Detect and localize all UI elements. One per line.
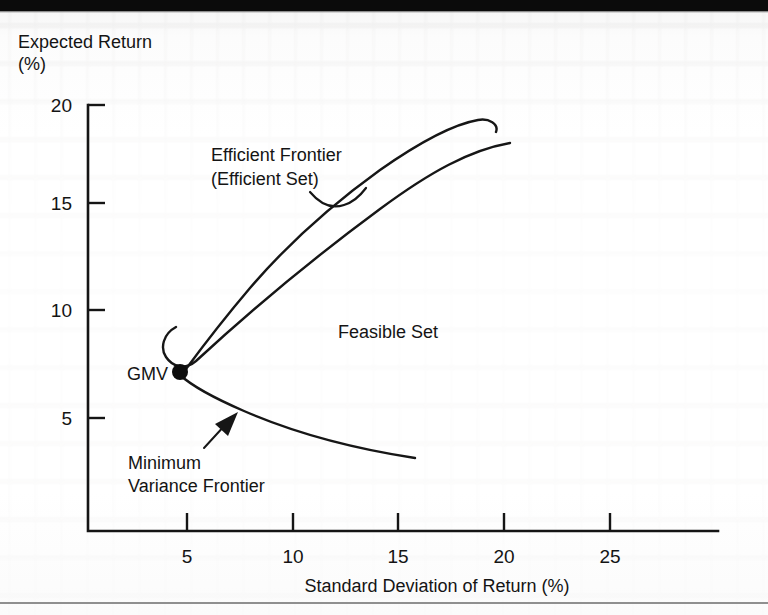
y-axis-title-line1: Expected Return: [18, 32, 152, 52]
figure-page: Expected Return (%) 20 15 10 5 5 10 15 2…: [0, 0, 768, 615]
x-tick-label-25: 25: [599, 546, 620, 567]
y-tick-label-5: 5: [61, 408, 72, 429]
y-axis-title-line2: (%): [18, 54, 46, 74]
efficient-frontier-label-line2: (Efficient Set): [211, 169, 319, 189]
gmv-point-marker: [172, 364, 188, 380]
y-tick-label-15: 15: [51, 193, 72, 214]
efficient-frontier-label-line1: Efficient Frontier: [211, 145, 342, 165]
gmv-label: GMV: [127, 364, 168, 384]
x-tick-label-15: 15: [387, 546, 408, 567]
y-tick-label-20: 20: [51, 95, 72, 116]
x-axis-title: Standard Deviation of Return (%): [304, 576, 569, 596]
y-tick-label-10: 10: [51, 300, 72, 321]
x-tick-label-20: 20: [493, 546, 514, 567]
minimum-variance-label-line1: Minimum: [128, 453, 201, 473]
efficient-frontier-figure: Expected Return (%) 20 15 10 5 5 10 15 2…: [0, 0, 768, 615]
x-tick-label-5: 5: [182, 546, 193, 567]
x-tick-label-10: 10: [282, 546, 303, 567]
minimum-variance-arrow: [204, 412, 238, 448]
feasible-set-label: Feasible Set: [338, 322, 438, 342]
minimum-variance-label-line2: Variance Frontier: [128, 476, 265, 496]
